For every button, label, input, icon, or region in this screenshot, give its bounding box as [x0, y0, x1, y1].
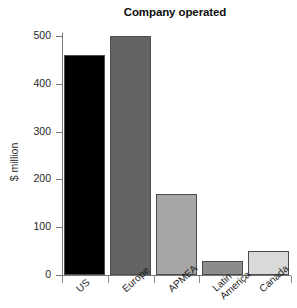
- x-axis-tick-mark: [199, 276, 200, 283]
- y-axis-tick-mark: [56, 132, 62, 133]
- y-axis-tick-label: 500: [33, 29, 51, 41]
- x-axis-label-line: US: [74, 277, 92, 294]
- y-axis-tick-label: 400: [33, 77, 51, 89]
- bar-chart: Company operated $ million 0100200300400…: [0, 0, 297, 308]
- y-axis-tick-mark: [56, 84, 62, 85]
- bar-us: [64, 55, 105, 275]
- y-axis-label: $ million: [8, 122, 20, 202]
- y-axis-tick-label: 300: [33, 125, 51, 137]
- x-axis-label-us: US: [74, 277, 92, 294]
- x-axis-tick-mark: [62, 276, 63, 283]
- bar-europe: [110, 36, 151, 275]
- y-axis-line: [62, 33, 63, 276]
- chart-title: Company operated: [70, 6, 280, 18]
- y-axis-tick-label: 100: [33, 220, 51, 232]
- x-axis-tick-mark: [245, 276, 246, 283]
- x-axis-tick-mark: [291, 276, 292, 283]
- y-axis-tick-mark: [56, 36, 62, 37]
- y-axis-tick-label: 0: [45, 268, 51, 280]
- y-axis-tick-mark: [56, 179, 62, 180]
- y-axis-tick-mark: [56, 227, 62, 228]
- y-axis-tick-label: 200: [33, 172, 51, 184]
- x-axis-tick-mark: [154, 276, 155, 283]
- x-axis-tick-mark: [108, 276, 109, 283]
- y-axis-label-container: $ million: [2, 120, 20, 210]
